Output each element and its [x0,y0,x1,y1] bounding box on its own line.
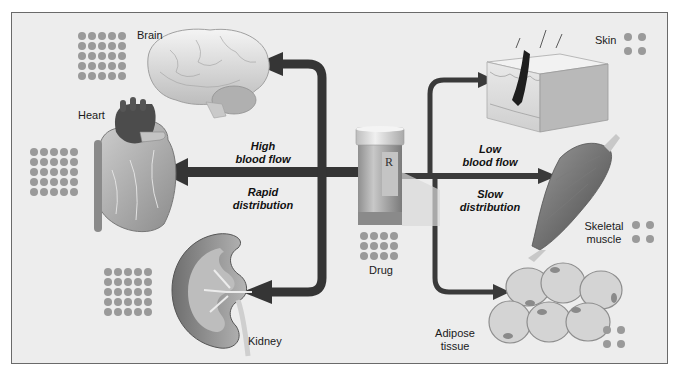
dot-icon [124,298,132,306]
dot-icon [104,298,112,306]
dot-icon [134,278,142,286]
dot-icon [603,340,611,348]
dot-icon [50,158,58,166]
dot-icon [114,268,122,276]
dot-icon [134,288,142,296]
dot-icon [370,232,378,240]
dot-icon [108,72,116,80]
dot-icon [124,288,132,296]
dot-icon [646,235,654,243]
skin-illustration [487,30,608,132]
organ-label-skin: Skin [595,34,616,47]
dot-icon [78,32,86,40]
dot-icon [624,47,632,55]
dot-icon [118,32,126,40]
high-blood-flow-caption: High blood flow [218,140,308,166]
dot-icon [134,308,142,316]
drug-label: Drug [360,264,402,277]
dot-icon [104,288,112,296]
dot-icon [144,278,152,286]
dot-icon [30,148,38,156]
dot-icon [114,288,122,296]
dot-icon [50,148,58,156]
dot-icon [50,188,58,196]
dot-icon [114,278,122,286]
dot-icon [118,72,126,80]
dot-icon [360,252,368,260]
dot-icon [114,298,122,306]
dot-icon [108,42,116,50]
dot-grid-kidney [104,268,152,316]
dot-icon [380,242,388,250]
dot-icon [88,72,96,80]
dot-icon [104,278,112,286]
dot-grid-skin [624,33,646,55]
dot-icon [646,221,654,229]
dot-icon [98,62,106,70]
dot-icon [78,42,86,50]
dot-icon [70,168,78,176]
dot-icon [144,298,152,306]
brain-illustration [148,29,269,118]
dot-icon [70,148,78,156]
low-blood-flow-caption: Low blood flow [440,143,540,169]
dot-icon [78,72,86,80]
dot-icon [617,326,625,334]
dot-icon [108,32,116,40]
dot-icon [114,308,122,316]
dot-icon [40,178,48,186]
dot-icon [40,168,48,176]
dot-icon [70,188,78,196]
dot-icon [98,52,106,60]
dot-icon [108,52,116,60]
dot-icon [88,42,96,50]
dot-icon [60,158,68,166]
dot-grid-drug [360,232,398,260]
dot-icon [60,148,68,156]
dot-icon [108,62,116,70]
dot-icon [98,32,106,40]
dot-icon [370,252,378,260]
dot-icon [78,52,86,60]
dot-icon [624,33,632,41]
dot-icon [30,178,38,186]
dot-icon [617,340,625,348]
dot-icon [40,148,48,156]
organ-label-adipose-tissue: Adipose tissue [430,327,480,353]
organ-label-skeletal-muscle: Skeletal muscle [578,220,630,246]
dot-icon [104,268,112,276]
dot-icon [40,158,48,166]
dot-icon [98,72,106,80]
dot-icon [390,242,398,250]
dot-icon [88,52,96,60]
dot-icon [30,168,38,176]
dot-icon [380,232,388,240]
dot-icon [632,221,640,229]
dot-icon [78,62,86,70]
dot-icon [98,42,106,50]
organ-label-heart: Heart [78,109,105,122]
dot-icon [124,268,132,276]
dot-icon [118,62,126,70]
dot-icon [603,326,611,334]
dot-icon [70,178,78,186]
kidney-illustration [172,234,252,356]
dot-grid-heart [30,148,78,196]
dot-icon [638,47,646,55]
dot-icon [60,188,68,196]
rx-symbol: R [385,155,393,169]
dot-icon [70,158,78,166]
dot-icon [50,178,58,186]
dot-grid-skeletal-muscle [632,221,654,243]
dot-icon [370,242,378,250]
dot-icon [134,298,142,306]
dot-icon [124,278,132,286]
organ-label-brain: Brain [137,29,163,42]
slow-distribution-caption: Slow distribution [440,188,540,214]
heart-illustration [94,97,176,232]
dot-icon [360,232,368,240]
dot-icon [144,288,152,296]
dot-icon [104,308,112,316]
dot-icon [134,268,142,276]
dot-icon [88,62,96,70]
